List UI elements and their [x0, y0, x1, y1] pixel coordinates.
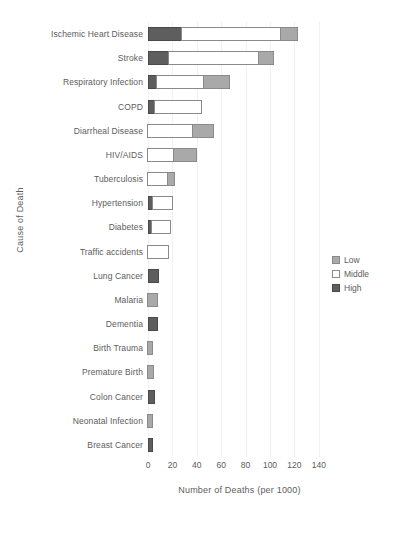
x-tick-label: 80: [241, 460, 250, 470]
legend: LowMiddleHigh: [332, 254, 369, 296]
bar-segment-high: [148, 51, 169, 65]
category-label: Respiratory Infection: [63, 70, 143, 94]
bar-segment-high: [148, 390, 155, 404]
bar-row: Diarrheal Disease: [148, 119, 331, 143]
stacked-bar: [148, 341, 153, 355]
bar-segment-low: [280, 27, 298, 41]
bar-segment-low: [147, 365, 154, 379]
x-axis: 020406080100120140: [148, 457, 331, 473]
bar-segment-high: [148, 438, 153, 452]
bar-segment-low: [167, 172, 176, 186]
bar-segment-middle: [154, 100, 202, 114]
stacked-bar: [148, 27, 298, 41]
bar-row: HIV/AIDS: [148, 143, 331, 167]
x-tick-label: 120: [287, 460, 301, 470]
legend-label: High: [344, 283, 361, 293]
category-label: Diabetes: [109, 215, 143, 239]
stacked-bar: [148, 269, 159, 283]
bar-segment-high: [148, 317, 158, 331]
bar-segment-high: [148, 269, 159, 283]
stacked-bar: [148, 100, 202, 114]
legend-item: Low: [332, 254, 369, 266]
stacked-bar: [148, 438, 153, 452]
stacked-bar: [148, 220, 171, 234]
bar-row: Respiratory Infection: [148, 70, 331, 94]
x-tick-label: 0: [146, 460, 151, 470]
y-axis-title: Cause of Death: [15, 170, 25, 270]
bar-row: Traffic accidents: [148, 240, 331, 264]
x-tick-label: 140: [312, 460, 326, 470]
bar-row: Diabetes: [148, 215, 331, 239]
stacked-bar: [148, 75, 230, 89]
category-label: Diarrheal Disease: [74, 119, 143, 143]
bar-segment-low: [192, 124, 214, 138]
category-label: Traffic accidents: [80, 240, 143, 264]
stacked-bar: [148, 390, 155, 404]
stacked-bar: [148, 124, 214, 138]
bar-segment-middle: [147, 148, 174, 162]
x-axis-title: Number of Deaths (per 1000): [148, 485, 331, 495]
category-label: Colon Cancer: [90, 385, 143, 409]
bar-chart-figure: Cause of Death Ischemic Heart DiseaseStr…: [0, 0, 394, 533]
bar-segment-middle: [147, 172, 168, 186]
category-label: Stroke: [118, 46, 143, 70]
bar-row: Lung Cancer: [148, 264, 331, 288]
category-label: Ischemic Heart Disease: [51, 22, 143, 46]
bar-segment-low: [147, 341, 153, 355]
stacked-bar: [148, 148, 197, 162]
bar-row: Ischemic Heart Disease: [148, 22, 331, 46]
bar-row: Colon Cancer: [148, 385, 331, 409]
bar-row: Breast Cancer: [148, 433, 331, 457]
bar-row: Birth Trauma: [148, 336, 331, 360]
stacked-bar: [148, 172, 175, 186]
x-tick-label: 60: [216, 460, 225, 470]
bar-row: Neonatal Infection: [148, 409, 331, 433]
legend-label: Low: [344, 255, 360, 265]
stacked-bar: [148, 414, 153, 428]
x-tick-label: 100: [263, 460, 277, 470]
bar-row: Tuberculosis: [148, 167, 331, 191]
category-label: Hypertension: [92, 191, 143, 215]
bar-segment-middle: [168, 51, 260, 65]
bar-segment-middle: [151, 220, 172, 234]
legend-swatch-middle: [332, 270, 340, 278]
bar-row: Malaria: [148, 288, 331, 312]
legend-item: Middle: [332, 268, 369, 280]
stacked-bar: [148, 196, 173, 210]
category-label: Breast Cancer: [87, 433, 143, 457]
bar-segment-middle: [156, 75, 205, 89]
bar-segment-low: [258, 51, 274, 65]
stacked-bar: [148, 317, 158, 331]
category-label: COPD: [118, 95, 143, 119]
bar-segment-low: [147, 414, 153, 428]
category-label: Dementia: [106, 312, 143, 336]
bar-row: Hypertension: [148, 191, 331, 215]
category-label: Malaria: [114, 288, 143, 312]
x-tick-label: 40: [192, 460, 201, 470]
plot-area: Ischemic Heart DiseaseStrokeRespiratory …: [148, 22, 331, 457]
bar-segment-middle: [181, 27, 281, 41]
x-tick-label: 20: [168, 460, 177, 470]
legend-label: Middle: [344, 269, 369, 279]
stacked-bar: [148, 51, 274, 65]
legend-swatch-low: [332, 256, 340, 264]
category-label: Tuberculosis: [94, 167, 143, 191]
stacked-bar: [148, 245, 169, 259]
bar-row: Dementia: [148, 312, 331, 336]
category-label: Lung Cancer: [93, 264, 143, 288]
bar-segment-low: [203, 75, 230, 89]
legend-item: High: [332, 282, 369, 294]
bar-segment-low: [147, 293, 158, 307]
stacked-bar: [148, 293, 158, 307]
bar-segment-middle: [152, 196, 173, 210]
category-label: HIV/AIDS: [106, 143, 143, 167]
legend-swatch-high: [332, 284, 340, 292]
category-label: Premature Birth: [82, 360, 143, 384]
bar-segment-low: [173, 148, 197, 162]
bar-row: Premature Birth: [148, 360, 331, 384]
bar-row: Stroke: [148, 46, 331, 70]
stacked-bar: [148, 365, 154, 379]
bar-segment-middle: [147, 124, 193, 138]
bar-row: COPD: [148, 95, 331, 119]
bar-segment-middle: [147, 245, 169, 259]
